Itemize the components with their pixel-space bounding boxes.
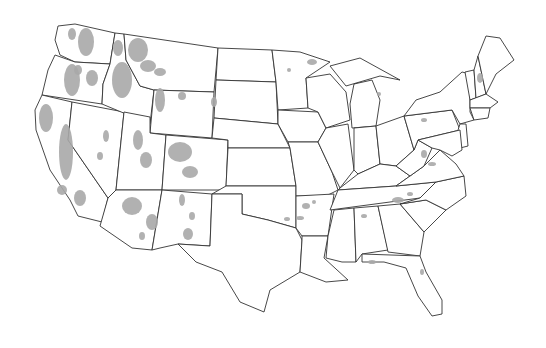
state-iowa [278,110,326,142]
state-north-dakota [216,48,276,82]
state-connecticut-ri [470,108,490,120]
state-kansas [226,148,296,186]
state-outlines [35,24,514,316]
state-south-dakota [214,80,278,124]
state-colorado [162,135,228,190]
us-map [0,0,546,348]
